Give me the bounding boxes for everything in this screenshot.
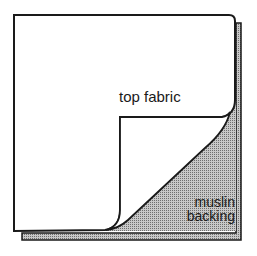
muslin-label-line1: muslin	[187, 195, 235, 209]
muslin-label-line2: backing	[187, 209, 235, 223]
muslin-backing-label: muslin backing	[187, 195, 235, 223]
quilt-layer-diagram: top fabric muslin backing	[0, 0, 257, 256]
top-fabric-label: top fabric	[119, 88, 181, 105]
